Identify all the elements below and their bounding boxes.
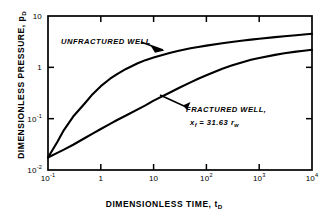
x-tick-label: 10-1 [41, 174, 56, 183]
x-tick-label-base: 10 [200, 174, 209, 183]
xf-value: = 31.63 r [197, 118, 235, 127]
x-tick-label-base: 10 [253, 174, 262, 183]
curve-unfractured-well [48, 34, 312, 158]
y-tick-label-base: 10 [27, 114, 36, 123]
x-axis-title-text: DIMENSIONLESS TIME, t [106, 199, 218, 209]
unfractured-well-label: UNFRACTURED WELL [61, 37, 151, 46]
y-axis-title: DIMENSIONLESS PRESSURE, pD [16, 11, 26, 159]
x-tick-label: 104 [306, 174, 319, 183]
x-tick-label-base: 10 [41, 174, 50, 183]
y-tick-label: 10-2 [8, 166, 42, 175]
y-axis-title-rotator: DIMENSIONLESS PRESSURE, pD [10, 0, 24, 170]
y-tick-label: 10 [8, 12, 42, 21]
x-axis-title: DIMENSIONLESS TIME, tD [0, 199, 328, 209]
x-tick-label-exponent: 3 [262, 172, 265, 178]
x-tick-label: 102 [200, 174, 213, 183]
x-tick-label-exponent: -1 [50, 172, 55, 178]
fractured-well-label: FRACTURED WELL, [186, 105, 266, 114]
plot-canvas [0, 0, 328, 218]
x-tick-label-base: 1 [98, 174, 103, 183]
x-axis-title-subscript: D [218, 203, 222, 210]
y-axis-title-text: DIMENSIONLESS PRESSURE, p [16, 16, 26, 159]
y-tick-label-base: 10 [33, 12, 42, 21]
fractured-leader-line [160, 95, 184, 106]
x-tick-label-base: 10 [306, 174, 315, 183]
y-tick-label-base: 1 [37, 63, 42, 72]
x-tick-label-exponent: 2 [209, 172, 212, 178]
y-tick-label-base: 10 [27, 166, 36, 175]
data-curves [48, 34, 312, 158]
chart-figure: DIMENSIONLESS PRESSURE, pD DIMENSIONLESS… [0, 0, 328, 218]
x-tick-label-base: 10 [149, 174, 158, 183]
x-tick-label: 1 [98, 174, 103, 183]
y-tick-label: 10-1 [8, 114, 42, 123]
annotation-leaders [141, 42, 191, 110]
y-tick-label-exponent: -1 [37, 113, 42, 119]
rw-subscript: w [234, 122, 238, 128]
fractured-well-fracture-length-label: xf = 31.63 rw [190, 118, 239, 127]
y-tick-label: 1 [8, 63, 42, 72]
y-tick-label-exponent: -2 [37, 164, 42, 170]
x-tick-label-exponent: 4 [315, 172, 318, 178]
x-tick-label: 10 [149, 174, 158, 183]
xf-subscript: f [195, 122, 197, 128]
x-tick-label: 103 [253, 174, 266, 183]
